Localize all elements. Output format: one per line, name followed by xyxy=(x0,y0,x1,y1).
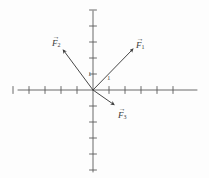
vector-diagram-figure: → F1 → F2 → F3 1 1 xyxy=(0,0,209,178)
vector-label-f1-text: F1 xyxy=(136,41,145,50)
vector-label-f3-text: F3 xyxy=(118,111,127,120)
vector-label-f2-text: F2 xyxy=(52,39,61,48)
force-vector-f3 xyxy=(93,90,113,104)
vector-label-f2: → F2 xyxy=(52,36,61,48)
unit-tick-label-x: 1 xyxy=(107,75,111,82)
vector-label-f1: → F1 xyxy=(136,38,145,50)
force-vector-f1 xyxy=(93,50,132,90)
force-vectors-group xyxy=(64,50,132,104)
coordinate-axes-svg xyxy=(0,0,209,178)
vector-label-f3: → F3 xyxy=(118,108,127,120)
unit-tick-label-y: 1 xyxy=(88,71,92,78)
